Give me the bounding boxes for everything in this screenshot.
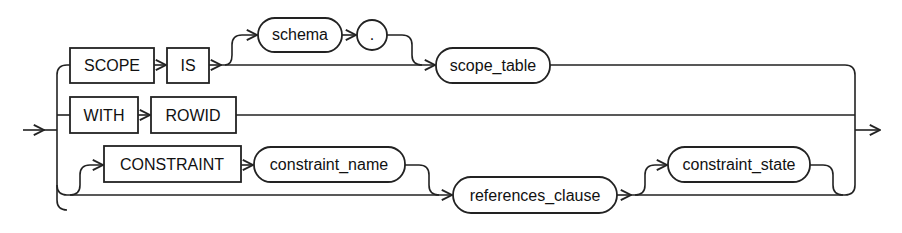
nonterminal-constraint-state-label: constraint_state [683, 156, 796, 174]
left-rail [57, 65, 70, 210]
keyword-is-label: IS [180, 57, 195, 74]
keyword-scope-label: SCOPE [84, 57, 140, 74]
nonterminal-constraint-name-label: constraint_name [270, 156, 388, 174]
nonterminal-references-clause-label: references_clause [470, 187, 601, 205]
keyword-constraint-label: CONSTRAINT [120, 156, 224, 173]
nonterminal-schema-label: schema [272, 26, 328, 43]
punct-dot-label: . [370, 26, 374, 43]
branch-with-rowid: WITH ROWID [70, 97, 855, 133]
nonterminal-scope-table-label: scope_table [450, 57, 536, 75]
branch-constraint: CONSTRAINT constraint_name references_cl… [57, 146, 855, 213]
keyword-rowid-label: ROWID [165, 107, 220, 124]
keyword-with-label: WITH [84, 107, 125, 124]
branch-scope: SCOPE IS schema . scope_table [70, 18, 855, 83]
railroad-diagram: SCOPE IS schema . scope_table WITH ROWID [0, 0, 902, 233]
